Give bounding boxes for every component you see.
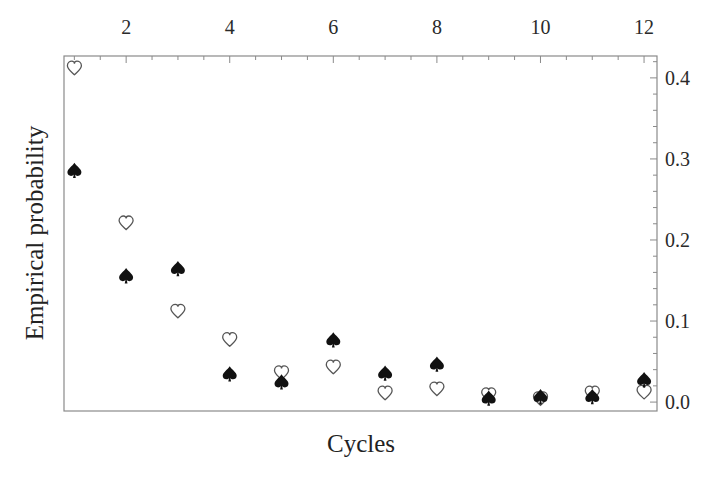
spade-marker-icon [378,365,392,380]
heart-marker-icon [171,304,185,318]
heart-marker-icon [637,385,651,399]
x-tick-label: 4 [225,16,235,38]
spade-marker-icon [67,163,81,178]
heart-marker-icon [119,216,133,230]
y-tick-label: 0.4 [665,67,690,89]
series-spade [67,163,651,406]
heart-marker-icon [67,61,81,75]
y-axis-right: 0.00.10.20.30.4 [650,62,690,413]
y-tick-label: 0.3 [665,148,690,170]
scatter-chart: 24681012 0.00.10.20.30.4 Cycles Empirica… [0,0,716,478]
heart-marker-icon [326,360,340,374]
plot-frame-group [64,56,657,411]
spade-marker-icon [171,261,185,276]
y-axis-title: Empirical probability [21,125,48,340]
x-tick-label: 10 [530,16,550,38]
x-tick-label: 8 [432,16,442,38]
spade-marker-icon [275,374,289,389]
data-markers [67,61,651,406]
x-tick-label: 2 [121,16,131,38]
series-heart [67,61,651,405]
spade-marker-icon [119,268,133,283]
heart-marker-icon [430,382,444,396]
plot-frame [64,56,657,411]
y-tick-label: 0.2 [665,229,690,251]
spade-marker-icon [534,389,548,404]
heart-marker-icon [223,333,237,347]
x-tick-label: 12 [634,16,654,38]
spade-marker-icon [223,366,237,381]
spade-marker-icon [430,357,444,372]
x-axis-title: Cycles [327,430,395,457]
y-tick-label: 0.1 [665,310,690,332]
x-tick-label: 6 [328,16,338,38]
y-tick-label: 0.0 [665,391,690,413]
spade-marker-icon [326,332,340,347]
spade-marker-icon [637,372,651,387]
heart-marker-icon [378,386,392,400]
